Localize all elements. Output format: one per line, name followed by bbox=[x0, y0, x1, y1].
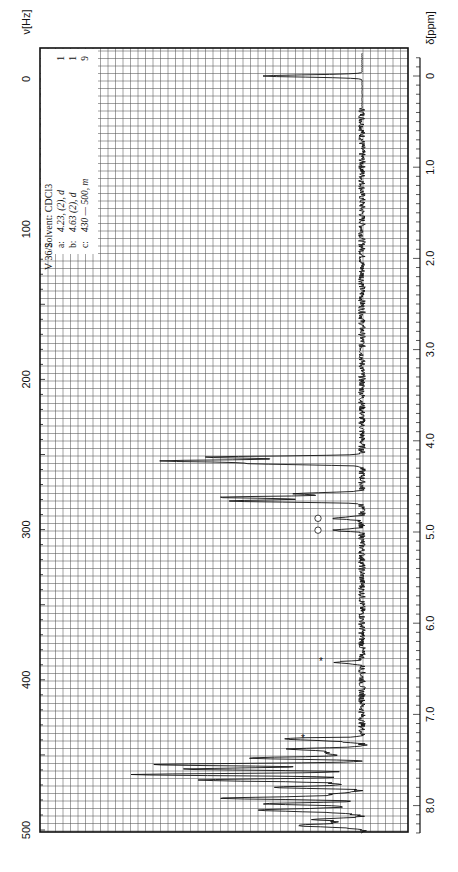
ppm-axis: 01.02.03.04.05.06.07.08.0δ[ppm] bbox=[413, 11, 436, 833]
ppm-tick-label: 1.0 bbox=[424, 160, 436, 175]
annotation-0-integral: 1 bbox=[56, 56, 66, 61]
hz-tick-label: 300 bbox=[20, 520, 32, 538]
impurity-circle-marker bbox=[315, 515, 321, 521]
ppm-axis-label: δ[ppm] bbox=[424, 11, 436, 45]
annotation-2-text: 430 — 500, m bbox=[80, 179, 90, 232]
ppm-tick-label: 4.0 bbox=[424, 433, 436, 448]
ppm-tick-label: 8.0 bbox=[424, 798, 436, 813]
annotation-0-text: 4.23, (2), d bbox=[56, 190, 67, 232]
annotation-1-integral: 1 bbox=[68, 56, 78, 61]
ppm-tick-label: 5.0 bbox=[424, 524, 436, 539]
impurity-circle-marker bbox=[315, 527, 321, 533]
nmr-spectrum-chart: 0100200300400500ν[Hz] 01.02.03.04.05.06.… bbox=[0, 0, 458, 872]
asterisk-marker: * bbox=[319, 656, 323, 667]
ppm-tick-label: 3.0 bbox=[424, 342, 436, 357]
hz-tick-label: 500 bbox=[20, 821, 32, 839]
annotation-1-text: 4.63 (2), d bbox=[68, 192, 79, 232]
annotation-2-label: c: bbox=[80, 241, 90, 248]
hz-tick-label: 100 bbox=[20, 220, 32, 238]
annotation-1-label: b: bbox=[68, 241, 78, 248]
annotation-2-integral: 9 bbox=[80, 56, 90, 61]
ppm-tick-label: 0 bbox=[424, 73, 436, 79]
annotation-0-label: a: bbox=[56, 241, 66, 248]
hz-tick-label: 200 bbox=[20, 370, 32, 388]
peak-markers: ** bbox=[301, 515, 323, 744]
hz-tick-label: 0 bbox=[20, 76, 32, 82]
asterisk-marker: * bbox=[301, 733, 305, 744]
spectrum-trace bbox=[131, 53, 367, 833]
hz-tick-label: 400 bbox=[20, 671, 32, 689]
solvent-label: Solvent: CDCl3 bbox=[43, 184, 54, 248]
ppm-tick-label: 2.0 bbox=[424, 251, 436, 266]
ppm-tick-label: 7.0 bbox=[424, 707, 436, 722]
ppm-tick-label: 6.0 bbox=[424, 616, 436, 631]
hz-axis-label: ν[Hz] bbox=[20, 9, 32, 34]
